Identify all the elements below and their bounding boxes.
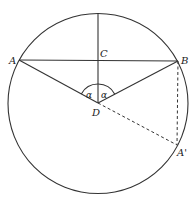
label-alpha-right: α — [101, 90, 107, 100]
segment-DB — [98, 61, 178, 103]
chord-AB — [19, 60, 178, 61]
dashed-segment-BA-prime — [177, 61, 178, 145]
label-alpha-left: α — [86, 90, 92, 100]
label-C: C — [100, 48, 108, 59]
label-A: A — [8, 55, 16, 66]
label-A-prime: A' — [176, 147, 187, 158]
dashed-segment-DA-prime — [98, 103, 177, 145]
label-D: D — [91, 107, 100, 118]
geometry-diagram: A B C D A' α α — [0, 0, 193, 200]
label-B: B — [180, 55, 188, 66]
